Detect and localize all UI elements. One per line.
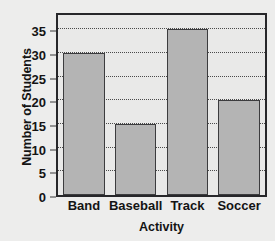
y-tick-label-25: 25: [32, 71, 46, 86]
x-tick-label-soccer: Soccer: [217, 198, 260, 213]
y-tick-label-35: 35: [32, 24, 46, 39]
y-tick-label-10: 10: [32, 142, 46, 157]
bar-soccer: [218, 100, 259, 195]
plot-area: [56, 13, 267, 197]
y-tick-label-5: 5: [39, 166, 46, 181]
y-tick-label-15: 15: [32, 118, 46, 133]
bar-chart-figure: Number of Students 05101520253035 BandBa…: [0, 0, 275, 241]
bar-band: [63, 53, 104, 195]
plot-inner: [58, 15, 265, 195]
x-tick-label-track: Track: [170, 198, 204, 213]
y-tick-label-20: 20: [32, 95, 46, 110]
x-tick-label-baseball: Baseball: [109, 198, 162, 213]
bar-baseball: [115, 124, 156, 195]
gridline-35: [58, 28, 265, 29]
x-axis-tick-labels: BandBaseballTrackSoccer: [56, 198, 267, 218]
bar-track: [167, 29, 208, 195]
y-tick-label-30: 30: [32, 47, 46, 62]
x-tick-label-band: Band: [68, 198, 101, 213]
y-tick-label-0: 0: [39, 190, 46, 205]
y-axis-tick-labels: 05101520253035: [26, 15, 50, 195]
x-axis-title: Activity: [56, 220, 267, 234]
